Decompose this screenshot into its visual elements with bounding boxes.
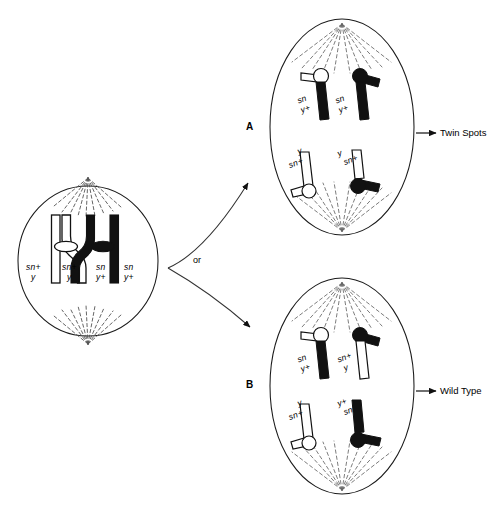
parent-allele-1: sn+ y [26, 263, 41, 282]
branch-arrow-up [168, 183, 248, 268]
cell-A-group [270, 19, 436, 235]
branch-or-label: or [193, 255, 201, 265]
cell-B-membrane [270, 278, 414, 494]
cell-B-letter: B [246, 379, 253, 390]
branch-arrow-down [168, 268, 250, 327]
parent-allele-3: sn y+ [96, 263, 106, 282]
diagram-svg [0, 0, 503, 512]
parent-allele-4: sn y+ [124, 263, 134, 282]
cell-A-letter: A [246, 121, 253, 132]
cell-B-outcome-label: Wild Type [440, 385, 482, 396]
parent-cell-group [18, 178, 158, 344]
parent-allele-2: sn+ y [62, 263, 77, 282]
parent-centromere-black [92, 241, 115, 251]
figure-canvas: sn+ y sn+ y sn y+ sn y+ or A B sn y+ sn … [0, 0, 503, 512]
cell-A-membrane [270, 19, 414, 235]
parent-centromere-white [55, 241, 78, 251]
branch-arrows [168, 183, 250, 327]
cell-B-group [270, 278, 436, 494]
cell-A-outcome-label: Twin Spots [440, 127, 486, 138]
parent-cell-membrane [18, 186, 158, 336]
